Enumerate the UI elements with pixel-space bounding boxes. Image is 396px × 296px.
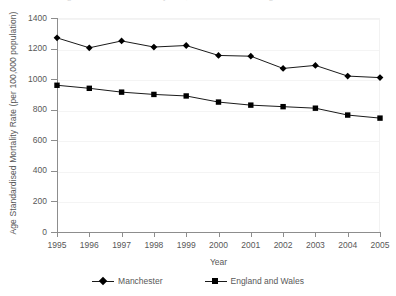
y-tick-mark xyxy=(51,140,57,141)
gridline xyxy=(57,50,379,51)
gridline xyxy=(57,80,379,81)
x-axis-title: Year xyxy=(57,257,380,267)
y-tick-label: 1200 xyxy=(0,44,47,53)
x-tick-mark xyxy=(380,232,381,237)
y-tick-mark xyxy=(51,201,57,202)
chart-legend: ManchesterEngland and Wales xyxy=(0,276,396,286)
chart-title: Age standardised mortality rate, Manches… xyxy=(0,0,396,1)
x-tick-mark xyxy=(186,232,187,237)
plot-area xyxy=(57,18,380,232)
y-tick-label: 0 xyxy=(0,228,47,237)
square-marker-icon xyxy=(212,278,218,284)
y-tick-mark xyxy=(51,171,57,172)
gridline xyxy=(57,19,379,20)
x-tick-mark xyxy=(283,232,284,237)
y-tick-mark xyxy=(51,79,57,80)
y-tick-label: 600 xyxy=(0,136,47,145)
x-tick-mark xyxy=(154,232,155,237)
y-tick-mark xyxy=(51,49,57,50)
x-tick-mark xyxy=(122,232,123,237)
x-tick-mark xyxy=(315,232,316,237)
legend-item-label: England and Wales xyxy=(231,276,304,286)
legend-item-manchester[interactable]: Manchester xyxy=(92,276,162,286)
gridline xyxy=(57,141,379,142)
y-tick-mark xyxy=(51,18,57,19)
y-tick-label: 200 xyxy=(0,197,47,206)
legend-item-england-and-wales[interactable]: England and Wales xyxy=(205,276,304,286)
x-tick-label: 2005 xyxy=(360,241,396,250)
x-tick-mark xyxy=(251,232,252,237)
y-tick-label: 1400 xyxy=(0,14,47,23)
x-tick-mark xyxy=(219,232,220,237)
x-tick-mark xyxy=(57,232,58,237)
legend-item-label: Manchester xyxy=(118,276,162,286)
y-tick-label: 400 xyxy=(0,166,47,175)
diamond-marker-icon xyxy=(92,277,114,286)
x-tick-mark xyxy=(89,232,90,237)
line-chart: Age standardised mortality rate, Manches… xyxy=(0,0,396,296)
square-marker-icon xyxy=(205,277,227,286)
gridline xyxy=(57,111,379,112)
x-tick-mark xyxy=(348,232,349,237)
gridline xyxy=(57,172,379,173)
gridline xyxy=(57,202,379,203)
y-axis-line xyxy=(57,18,58,232)
y-tick-mark xyxy=(51,110,57,111)
y-tick-label: 1000 xyxy=(0,75,47,84)
diamond-marker-icon xyxy=(98,277,106,285)
y-tick-label: 800 xyxy=(0,105,47,114)
